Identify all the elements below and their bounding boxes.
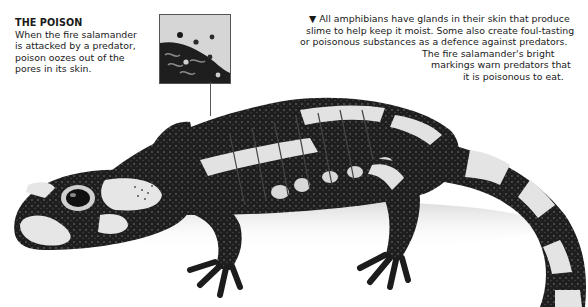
skin-closeup-image	[160, 15, 230, 83]
caption-line: poison oozes out of the	[15, 52, 155, 64]
caption-line: pores in its skin.	[15, 63, 155, 75]
caption-line: The fire salamander's bright	[300, 48, 580, 60]
caption-line: or poisonous substances as a defence aga…	[300, 36, 580, 48]
caption-line: When the fire salamander	[15, 29, 155, 41]
poison-caption: THE POISON When the fire salamander is a…	[15, 17, 155, 75]
triangle-down-icon: ▼	[309, 13, 316, 24]
callout-leader-line	[210, 82, 211, 116]
caption-line: is attacked by a predator,	[15, 40, 155, 52]
caption-title: THE POISON	[15, 17, 155, 29]
caption-line: ▼ All amphibians have glands in their sk…	[300, 13, 580, 25]
caption-line: it is poisonous to eat.	[300, 71, 580, 83]
caption-line: markings warn predators that	[300, 59, 580, 71]
caption-line: slime to help keep it moist. Some also c…	[300, 25, 580, 37]
amphibian-glands-caption: ▼ All amphibians have glands in their sk…	[300, 13, 580, 83]
skin-closeup-callout	[159, 14, 231, 84]
